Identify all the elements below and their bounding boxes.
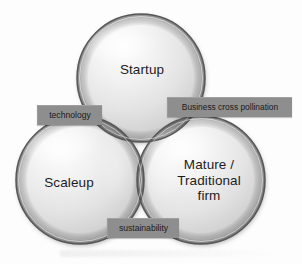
venn-diagram: Startup Scaleup Mature / Traditional fir…	[0, 0, 302, 264]
intersection-label-technology: technology	[37, 105, 102, 125]
intersection-label-sustainability: sustainability	[107, 218, 179, 238]
intersection-label-business-cross-pollination: Business cross pollination	[167, 97, 292, 117]
